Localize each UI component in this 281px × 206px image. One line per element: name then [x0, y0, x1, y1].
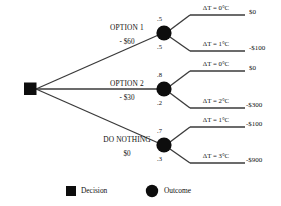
payoff-o2-a: $0 — [249, 65, 256, 72]
outcome-line-o2-b — [170, 93, 190, 108]
branch-cost-option-2: - $30 — [120, 95, 135, 102]
payoff-o1-b: -$100 — [249, 45, 265, 52]
delta-label-o1-b: ΔT = 1°C — [203, 41, 229, 48]
probability-o1-b: .5 — [157, 44, 162, 51]
probability-o2-b: .2 — [157, 100, 162, 107]
legend-label-outcome: Outcome — [164, 187, 191, 194]
circle-node-icon — [146, 185, 158, 197]
delta-label-o1-a: ΔT = 0°C — [203, 5, 229, 12]
chance-node-option-1 — [156, 25, 171, 40]
chance-node-option-2 — [156, 81, 171, 96]
delta-label-dn-a: ΔT = 1°C — [203, 117, 229, 124]
branch-label-option-1: OPTION 1 — [110, 24, 144, 31]
outcome-line-o2-a — [170, 71, 190, 86]
probability-dn-b: .3 — [157, 156, 162, 163]
delta-label-o2-b: ΔT = 2°C — [203, 98, 229, 105]
payoff-o1-a: $0 — [249, 9, 256, 16]
probability-o1-a: .5 — [157, 16, 162, 23]
legend-label-decision: Decision — [81, 187, 107, 194]
root-decision-node — [24, 83, 37, 96]
square-node-icon — [66, 186, 76, 196]
branch-label-do-nothing: DO NOTHING — [103, 136, 151, 143]
decision-tree-diagram: OPTION 1 - $60 .5 .5 ΔT = 0°C $0 ΔT = 1°… — [0, 0, 281, 206]
trunk-branches — [36, 33, 163, 145]
branch-label-option-2: OPTION 2 — [110, 80, 144, 87]
outcome-line-dn-a — [170, 127, 190, 142]
outcome-line-dn-b — [170, 149, 190, 163]
outcome-line-o1-a — [170, 15, 190, 30]
probability-o2-a: .8 — [157, 72, 162, 79]
payoff-o2-b: -$300 — [246, 102, 262, 109]
outcome-line-o1-b — [170, 37, 190, 51]
payoff-dn-b: -$900 — [246, 157, 262, 164]
delta-label-o2-a: ΔT = 0°C — [203, 61, 229, 68]
chance-node-do-nothing — [156, 137, 171, 152]
delta-label-dn-b: ΔT = 3°C — [203, 153, 229, 160]
payoff-dn-a: -$100 — [246, 121, 262, 128]
branch-cost-do-nothing: $0 — [123, 151, 130, 158]
branch-cost-option-1: - $60 — [120, 39, 135, 46]
probability-dn-a: .7 — [157, 128, 162, 135]
